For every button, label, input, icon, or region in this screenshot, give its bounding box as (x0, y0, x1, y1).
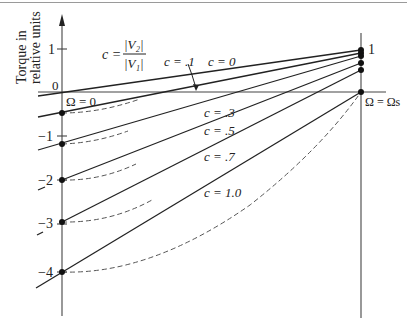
label-c-10: c = 1.0 (204, 185, 242, 200)
svg-text:|V₁|: |V₁| (124, 56, 144, 71)
svg-text:Torque in: Torque in (14, 30, 29, 84)
svg-text:relative units: relative units (28, 11, 43, 84)
omega-zero-label: Ω = 0 (66, 94, 96, 109)
torque-speed-diagram: Torque in relative units 1 0 −1 −2 −3 −4… (0, 0, 407, 329)
dashed-curve-c-05 (62, 164, 136, 180)
y-axis-title: Torque in relative units (14, 11, 43, 84)
tick-minus-3: −3 (38, 216, 53, 231)
tick-minus-1: −1 (38, 129, 53, 144)
tick-0: 0 (52, 78, 59, 93)
label-c-01: c = .1 (164, 54, 195, 69)
right-axis-one: 1 (368, 42, 375, 57)
line-c-07-stub (37, 232, 43, 235)
c-definition: c = |V₂| |V₁| (102, 37, 146, 71)
label-c-03: c = .3 (204, 105, 235, 120)
label-c-05: c = .5 (204, 123, 235, 138)
tick-minus-2: −2 (38, 173, 53, 188)
pointer-arrow-icon (193, 84, 199, 91)
line-c-10 (36, 92, 361, 288)
tick-1: 1 (48, 42, 55, 57)
arrow-up-icon (59, 14, 65, 26)
omega-sync-label: Ω = Ωs (365, 95, 401, 109)
svg-text:|V₂|: |V₂| (124, 37, 144, 52)
label-c-0: c = 0 (208, 54, 236, 69)
svg-text:c =: c = (102, 47, 121, 62)
line-c-0 (38, 50, 361, 96)
dashed-curve-c-07 (62, 200, 152, 222)
label-c-07: c = .7 (204, 149, 235, 164)
tick-minus-4: −4 (38, 265, 53, 280)
